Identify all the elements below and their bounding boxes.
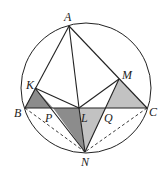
label-B: B (14, 106, 22, 120)
label-N: N (80, 155, 90, 169)
geometry-diagram: A B C K M L P Q N (0, 0, 166, 177)
segment-ab (25, 26, 69, 108)
label-L: L (80, 111, 88, 125)
label-M: M (121, 68, 133, 82)
label-P: P (44, 111, 53, 125)
label-C: C (149, 105, 158, 119)
label-A: A (63, 10, 72, 24)
segment-al (69, 26, 79, 108)
segment-ac (69, 26, 147, 108)
label-Q: Q (104, 111, 113, 125)
label-K: K (25, 78, 35, 92)
